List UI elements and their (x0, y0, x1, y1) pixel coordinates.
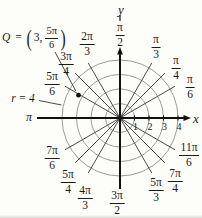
angle-label-pi: π (26, 111, 32, 123)
angle-label-2pi-3: 2π 3 (80, 31, 95, 57)
y-axis-arrowhead (117, 47, 123, 55)
q-open-paren: ( (26, 28, 31, 48)
fraction-numerator: 4π (78, 185, 93, 199)
fraction-denominator: 6 (187, 88, 193, 101)
angle-label-11pi-6: 11π 6 (179, 142, 199, 168)
x-axis-label: x (193, 112, 199, 125)
fraction-denominator: 3 (153, 48, 159, 61)
fraction-numerator: π (116, 22, 125, 36)
r-tick-label-2: 2 (148, 122, 153, 132)
r4-annotation: r = 4 (11, 93, 35, 105)
fraction-denominator: 3 (153, 191, 159, 204)
fraction-numerator: 7π (168, 168, 183, 182)
fraction-denominator: 4 (172, 182, 178, 195)
fraction-numerator: 3π (110, 190, 125, 204)
y-axis-label: y (118, 3, 124, 16)
fraction-denominator: 2 (117, 36, 123, 49)
x-axis-arrowhead (184, 115, 192, 121)
polar-figure: y x π 1 2 3 4 π 2 2π 3 π 3 3π 4 π 4 5π 6… (0, 0, 202, 218)
scan-edge-artifact (0, 215, 202, 218)
angle-label-7pi-6: 7π 6 (45, 145, 60, 171)
fraction-denominator: 6 (49, 39, 54, 51)
r-tick-label-3: 3 (162, 122, 167, 132)
fraction-numerator: 2π (80, 31, 95, 45)
q-equals-sign: = (13, 32, 24, 44)
angle-label-pi-2: π 2 (116, 22, 125, 48)
angle-label-pi-6: π 6 (186, 74, 195, 100)
fraction-denominator: 4 (173, 69, 179, 82)
q-angle-fraction: 5π 6 (45, 26, 58, 50)
point-q-annotation: Q = ( 3, 5π 6 ) (2, 26, 67, 50)
angle-label-3pi-4: 3π 4 (59, 51, 74, 77)
fraction-numerator: 5π (61, 169, 76, 183)
fraction-denominator: 4 (63, 65, 69, 78)
r4-leader-line (39, 101, 62, 106)
angle-label-pi-3: π 3 (152, 34, 161, 60)
fraction-denominator: 4 (65, 183, 71, 196)
point-q-dot (76, 93, 81, 98)
fraction-numerator: 5π (149, 177, 164, 191)
fraction-numerator: 5π (45, 71, 60, 85)
r-tick-label-1: 1 (133, 122, 138, 132)
angle-label-5pi-6: 5π 6 (45, 71, 60, 97)
fraction-denominator: 6 (49, 85, 55, 98)
fraction-numerator: 5π (45, 26, 58, 39)
fraction-denominator: 6 (186, 156, 192, 169)
angle-label-pi-4: π 4 (172, 55, 181, 81)
q-r-value: 3, (34, 32, 43, 44)
angle-label-5pi-3: 5π 3 (149, 177, 164, 203)
fraction-numerator: π (186, 74, 195, 88)
r-tick-label-4: 4 (177, 122, 182, 132)
fraction-numerator: 7π (45, 145, 60, 159)
fraction-numerator: π (152, 34, 161, 48)
q-variable: Q (2, 32, 12, 44)
fraction-numerator: π (172, 55, 181, 69)
q-close-paren: ) (60, 28, 65, 48)
fraction-denominator: 6 (49, 159, 55, 172)
angle-label-4pi-3: 4π 3 (78, 185, 93, 211)
angle-label-7pi-4: 7π 4 (168, 168, 183, 194)
fraction-denominator: 3 (84, 45, 90, 58)
angle-label-5pi-4: 5π 4 (61, 169, 76, 195)
fraction-numerator: 11π (179, 142, 199, 156)
fraction-numerator: 3π (59, 51, 74, 65)
angle-label-3pi-2: 3π 2 (110, 190, 125, 216)
fraction-denominator: 3 (82, 199, 88, 212)
